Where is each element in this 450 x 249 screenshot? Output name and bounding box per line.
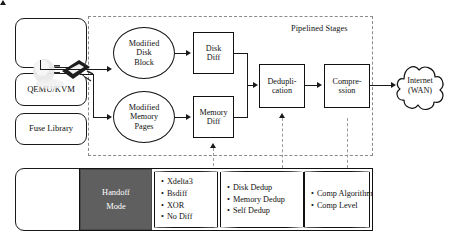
- node-internet-wan-label: Internet (WAN): [392, 76, 448, 96]
- control-arrow-to-deduplication: [279, 113, 285, 118]
- node-internet-wan-line-1: Internet: [392, 76, 448, 86]
- connector-diskdiff-out: [234, 53, 248, 54]
- node-modified-disk-block-line-3: Block: [129, 58, 159, 67]
- control-line-to-deduplication: [282, 118, 283, 168]
- connector-diskdiff-down: [247, 53, 248, 85]
- connector-qemu-down: [93, 74, 94, 117]
- scan-artifact: [32, 54, 94, 90]
- connector-compression-to-internet: [370, 85, 392, 86]
- node-handoff-mode[interactable]: Handoff Mode: [80, 169, 152, 230]
- arrow-to-modified-disk-block: [107, 66, 112, 72]
- option-group-diff-algorithms-items: Xdelta3 Bsdiff XOR No Diff: [161, 171, 214, 228]
- connector-vm-to-disk: [40, 69, 108, 70]
- node-modified-disk-block-line-1: Modified: [129, 39, 159, 48]
- arrow-to-deduplication: [253, 82, 258, 88]
- node-modified-memory-pages-line-3: Pages: [129, 122, 159, 131]
- arrow-to-memory-diff: [186, 114, 191, 120]
- node-disk-diff: Disk Diff: [193, 32, 234, 74]
- control-line-to-memory-diff: [213, 148, 214, 166]
- connector-memorydiff-out: [234, 117, 248, 118]
- node-memory-diff: Memory Diff: [193, 96, 234, 138]
- node-compression-line-1: Compre-: [332, 77, 361, 86]
- diagram-canvas: Pipelined Stages QEMU/KVM Fuse Library: [0, 0, 450, 249]
- option-item[interactable]: Xdelta3: [161, 176, 214, 188]
- node-handoff-mode-line-2: Mode: [102, 202, 130, 211]
- left-box-lower: [15, 168, 87, 231]
- node-internet-wan-line-2: (WAN): [392, 86, 448, 96]
- connector-memorydiff-up: [247, 85, 248, 117]
- option-item[interactable]: XOR: [161, 200, 214, 212]
- option-group-compression-options-items: Comp Algorithm Comp Level: [311, 171, 366, 228]
- node-deduplication: Dedupli- cation: [259, 64, 305, 108]
- node-memory-diff-line-1: Memory: [199, 108, 227, 117]
- left-box-fuse-library: Fuse Library: [15, 113, 87, 145]
- node-modified-disk-block-line-2: Disk: [129, 48, 159, 57]
- option-group-diff-algorithms[interactable]: Xdelta3 Bsdiff XOR No Diff: [154, 171, 218, 228]
- option-group-dedup-options[interactable]: Disk Dedup Memory Dedup Self Dedup: [220, 171, 304, 228]
- arrow-to-disk-diff: [186, 50, 191, 56]
- node-modified-memory-pages-line-1: Modified: [129, 103, 159, 112]
- option-item[interactable]: Self Dedup: [227, 205, 300, 217]
- pipelined-stages-label: Pipelined Stages: [291, 24, 348, 33]
- control-arrow-to-memory-diff: [210, 143, 216, 148]
- node-handoff-mode-line-1: Handoff: [102, 188, 130, 197]
- option-item[interactable]: Bsdiff: [161, 188, 214, 200]
- node-disk-diff-line-1: Disk: [206, 44, 221, 53]
- node-modified-disk-block: Modified Disk Block: [113, 27, 175, 79]
- left-box-fuse-library-label: Fuse Library: [29, 124, 73, 134]
- option-group-dedup-options-items: Disk Dedup Memory Dedup Self Dedup: [227, 171, 300, 228]
- option-item[interactable]: Memory Dedup: [227, 194, 300, 206]
- control-arrow-to-compression: [0, 0, 6, 5]
- connector-qemu-top-stub: [80, 74, 94, 75]
- node-compression: Compre- ssion: [324, 64, 370, 108]
- node-deduplication-line-2: cation: [267, 86, 296, 95]
- connector-vm-down: [40, 60, 41, 69]
- node-modified-memory-pages-line-2: Memory: [129, 112, 159, 121]
- option-item[interactable]: Comp Level: [311, 200, 366, 212]
- option-item[interactable]: No Diff: [161, 211, 214, 223]
- node-modified-memory-pages: Modified Memory Pages: [113, 91, 175, 143]
- node-deduplication-line-1: Dedupli-: [267, 77, 296, 86]
- option-group-compression-options[interactable]: Comp Algorithm Comp Level: [304, 171, 370, 228]
- node-internet-wan: Internet (WAN): [392, 55, 448, 117]
- control-line-to-compression: [347, 118, 348, 168]
- node-memory-diff-line-2: Diff: [199, 117, 227, 126]
- option-item[interactable]: Disk Dedup: [227, 182, 300, 194]
- arrow-to-compression: [317, 82, 322, 88]
- option-item[interactable]: Comp Algorithm: [311, 188, 366, 200]
- node-disk-diff-line-2: Diff: [206, 53, 221, 62]
- connector-qemu-to-memory: [93, 117, 108, 118]
- node-compression-line-2: ssion: [332, 86, 361, 95]
- arrow-to-modified-memory-pages: [107, 114, 112, 120]
